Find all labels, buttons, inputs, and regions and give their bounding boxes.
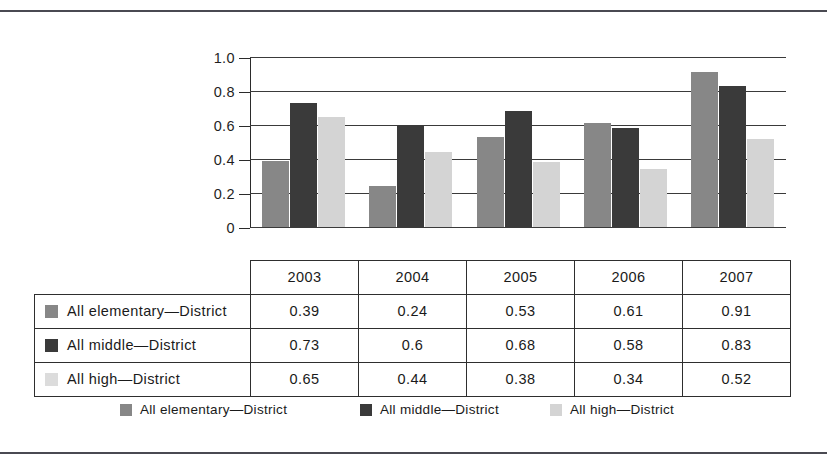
table-column-header: 2005 (467, 260, 575, 294)
series-swatch-icon (45, 305, 58, 318)
bar-2 (425, 152, 452, 227)
table-column-header: 2006 (575, 260, 683, 294)
table-row-label: All high—District (35, 362, 251, 396)
bar-group (572, 57, 679, 227)
legend-swatch-icon (360, 404, 372, 416)
table-column-header: 2007 (683, 260, 791, 294)
y-axis-tick-mark (239, 126, 250, 127)
figure-container: 1.00.80.60.40.20 20032004200520062007All… (0, 14, 827, 450)
table-corner-spacer (35, 260, 251, 294)
legend-item-label: All elementary—District (140, 402, 287, 417)
bar-0 (584, 123, 611, 227)
series-swatch-icon (45, 373, 58, 386)
bar-group (679, 57, 786, 227)
page-rule-bottom (0, 452, 827, 454)
legend-swatch-icon (550, 404, 562, 416)
legend-swatch-icon (120, 404, 132, 416)
table-cell: 0.68 (467, 328, 575, 362)
bar-2 (640, 169, 667, 227)
y-axis-tick-mark (239, 58, 250, 59)
chart-legend: All elementary—DistrictAll middle—Distri… (34, 402, 790, 424)
table-cell: 0.53 (467, 294, 575, 328)
table-cell: 0.58 (575, 328, 683, 362)
table-row-label-text: All high—District (67, 371, 180, 387)
bar-group (464, 57, 571, 227)
legend-item-label: All middle—District (380, 402, 499, 417)
bar-0 (369, 186, 396, 227)
table-column-header: 2004 (359, 260, 467, 294)
bar-1 (505, 111, 532, 227)
y-axis-tick-mark (239, 92, 250, 93)
table-cell: 0.38 (467, 362, 575, 396)
table-cell: 0.52 (683, 362, 791, 396)
table-row-label-text: All middle—District (67, 337, 196, 353)
bar-1 (612, 128, 639, 227)
table-header-row (35, 227, 791, 260)
table-cell: 0.61 (575, 294, 683, 328)
legend-item: All elementary—District (120, 402, 287, 417)
y-axis-tick-label: 0.8 (214, 84, 235, 100)
table-row-label-text: All elementary—District (67, 303, 227, 319)
series-swatch-icon (45, 339, 58, 352)
data-table: 20032004200520062007All elementary—Distr… (34, 227, 791, 397)
y-axis-tick-label: 0.2 (214, 186, 235, 202)
bar-2 (533, 162, 560, 227)
table-cell: 0.39 (251, 294, 359, 328)
table-cell: 0.65 (251, 362, 359, 396)
bar-1 (719, 86, 746, 227)
table-cell: 0.91 (683, 294, 791, 328)
bar-1 (290, 103, 317, 227)
table-cell: 0.34 (575, 362, 683, 396)
bar-2 (318, 117, 345, 228)
table-cell: 0.24 (359, 294, 467, 328)
bar-group (357, 57, 464, 227)
table-cell: 0.6 (359, 328, 467, 362)
y-axis-tick-label: 0.6 (214, 118, 235, 134)
y-axis-tick-mark (239, 194, 250, 195)
table-year-header-row: 20032004200520062007 (35, 260, 791, 294)
bar-0 (691, 72, 718, 227)
chart-plot-area: 1.00.80.60.40.20 (250, 57, 786, 227)
y-axis-tick-mark (239, 160, 250, 161)
table-row: All middle—District0.730.60.680.580.83 (35, 328, 791, 362)
y-axis-tick-label: 1.0 (214, 50, 235, 66)
table-row: All high—District0.650.440.380.340.52 (35, 362, 791, 396)
table-row-label: All elementary—District (35, 294, 251, 328)
table-cell: 0.44 (359, 362, 467, 396)
legend-item: All middle—District (360, 402, 499, 417)
table-row: All elementary—District0.390.240.530.610… (35, 294, 791, 328)
table-column-header: 2003 (251, 260, 359, 294)
y-axis-tick-label: 0.4 (214, 152, 235, 168)
page-rule-top (0, 10, 827, 12)
bar-series-layer (250, 57, 786, 227)
bar-group (250, 57, 357, 227)
legend-item: All high—District (550, 402, 674, 417)
table-row-label: All middle—District (35, 328, 251, 362)
table-corner-cell (35, 227, 251, 260)
bar-2 (747, 139, 774, 227)
bar-0 (262, 161, 289, 227)
bar-0 (477, 137, 504, 227)
table-cell: 0.73 (251, 328, 359, 362)
table-cell: 0.83 (683, 328, 791, 362)
legend-item-label: All high—District (570, 402, 674, 417)
bar-1 (397, 125, 424, 227)
